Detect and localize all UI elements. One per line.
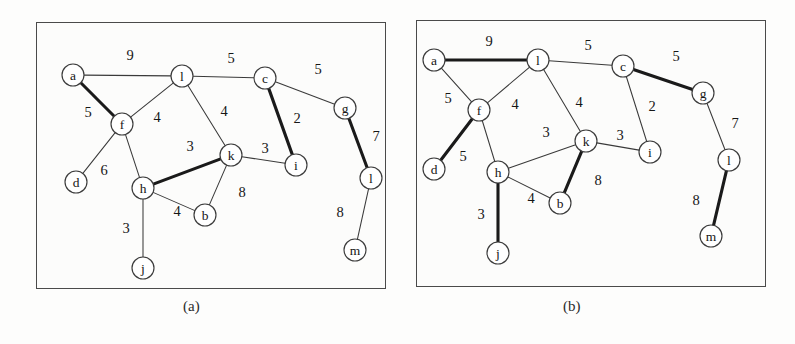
edge-l-c xyxy=(193,76,254,77)
edge-weight-f-d: 6 xyxy=(100,162,107,178)
edge-weight-c-i: 2 xyxy=(293,110,300,126)
edge-weight-h-b: 4 xyxy=(527,190,535,206)
edge-weight-a-f: 5 xyxy=(84,104,91,120)
edge-weight-c-g: 5 xyxy=(314,61,321,77)
edge-f-l xyxy=(487,67,529,103)
edge-l-c xyxy=(549,61,612,65)
graph-node-label-b-b: b xyxy=(557,196,564,211)
graph-node-label-b-k: k xyxy=(583,134,590,149)
edge-weight-l2-m: 8 xyxy=(692,192,699,208)
edge-g-l2 xyxy=(349,118,367,167)
edge-weight-l-k: 4 xyxy=(575,94,583,110)
edge-weight-k-i: 3 xyxy=(261,140,268,156)
graph-drawing-layer: 955544276338438alcgfkidhlbmj955544275338… xyxy=(0,0,795,344)
edge-weight-k-i: 3 xyxy=(616,127,623,143)
graph-node-label-a-m: m xyxy=(350,243,361,258)
edge-weight-h-b: 4 xyxy=(173,203,181,219)
nodes-group-b: alcgfkildhbmj xyxy=(423,49,740,264)
edge-f-h xyxy=(482,121,495,162)
edge-weight-g-l2: 7 xyxy=(731,115,738,131)
edge-weight-f-l: 4 xyxy=(153,109,161,125)
graph-node-label-a-j: j xyxy=(140,261,145,276)
edge-weight-l-k: 4 xyxy=(220,103,228,119)
edge-k-b xyxy=(209,165,226,205)
edge-h-k xyxy=(153,159,220,184)
edge-g-l2 xyxy=(707,103,725,149)
graph-node-label-b-c: c xyxy=(620,59,626,74)
edge-l2-m xyxy=(357,189,368,240)
edge-l2-m xyxy=(714,171,727,226)
graph-node-label-a-d: d xyxy=(73,175,80,190)
caption-panel-a: (a) xyxy=(183,298,200,315)
edge-c-g xyxy=(633,70,692,90)
edge-f-d xyxy=(441,119,473,161)
graph-node-label-a-l2: l xyxy=(369,171,373,186)
figure-canvas: 955544276338438alcgfkidhlbmj955544275338… xyxy=(0,0,795,344)
graph-node-label-b-i: i xyxy=(648,145,652,160)
edge-weight-c-g: 5 xyxy=(672,48,679,64)
edge-weight-l-c: 5 xyxy=(584,37,591,53)
edge-k-b xyxy=(564,151,581,193)
edge-weight-a-f: 5 xyxy=(444,90,451,106)
graph-node-label-b-l: l xyxy=(536,53,540,68)
graph-node-label-b-m: m xyxy=(706,229,717,244)
edge-f-h xyxy=(125,134,139,177)
graph-node-label-a-l: l xyxy=(180,69,184,84)
edge-weight-h-j: 3 xyxy=(477,206,484,222)
edge-weight-h-k: 3 xyxy=(542,124,549,140)
edge-weight-f-d: 5 xyxy=(459,148,466,164)
graph-node-label-b-f: f xyxy=(477,103,482,118)
graph-node-label-a-k: k xyxy=(228,148,235,163)
graph-node-label-b-g: g xyxy=(700,86,707,101)
graph-node-label-b-l2: l xyxy=(727,153,731,168)
graph-node-label-a-f: f xyxy=(120,117,125,132)
graph-node-label-b-d: d xyxy=(431,162,438,177)
edge-f-d xyxy=(83,133,115,174)
nodes-group-a: alcgfkidhlbmj xyxy=(62,64,382,279)
edge-a-l xyxy=(84,75,171,76)
edge-c-g xyxy=(275,82,334,104)
graph-node-label-b-j: j xyxy=(495,246,500,261)
edge-weight-f-l: 4 xyxy=(511,96,519,112)
edge-weight-h-j: 3 xyxy=(122,220,129,236)
edge-weight-h-k: 3 xyxy=(186,138,193,154)
edge-weight-g-l2: 7 xyxy=(372,128,379,144)
edge-weight-a-l: 9 xyxy=(485,33,492,49)
graph-node-label-a-h: h xyxy=(140,181,147,196)
graph-node-label-a-a: a xyxy=(70,68,76,83)
caption-panel-b: (b) xyxy=(563,298,581,315)
edge-k-i xyxy=(597,143,639,150)
graph-node-label-a-c: c xyxy=(262,71,268,86)
graph-node-label-b-h: h xyxy=(495,165,502,180)
edge-k-i xyxy=(242,157,285,164)
edge-weight-k-b: 8 xyxy=(238,184,245,200)
edge-h-k xyxy=(508,145,575,169)
edge-weight-k-b: 8 xyxy=(594,172,601,188)
graph-node-label-a-i: i xyxy=(294,158,298,173)
edge-c-i xyxy=(269,88,293,154)
edge-weight-a-l: 9 xyxy=(126,47,133,63)
graph-node-label-a-g: g xyxy=(342,101,349,116)
edge-weight-c-i: 2 xyxy=(648,98,655,114)
graph-node-label-a-b: b xyxy=(202,208,209,223)
edge-weight-l2-m: 8 xyxy=(336,204,343,220)
graph-node-label-b-a: a xyxy=(431,53,437,68)
edge-f-l xyxy=(131,83,174,117)
edge-c-i xyxy=(626,76,646,141)
edge-weight-l-c: 5 xyxy=(227,50,234,66)
